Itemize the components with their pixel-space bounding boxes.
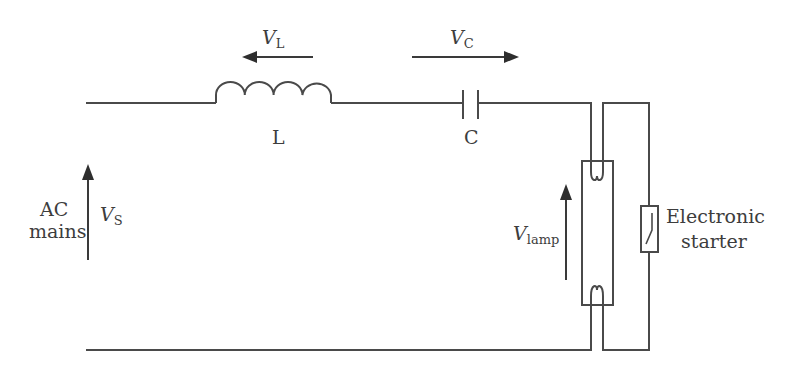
- wire-lamp-bottom-to-starter: [603, 252, 649, 350]
- starter-label-line2: starter: [681, 230, 748, 252]
- bottom-wire: [86, 296, 591, 350]
- lamp-top-filament: [591, 172, 603, 180]
- vs-label: VS: [100, 203, 123, 228]
- vc-arrowhead-icon: [504, 51, 519, 63]
- vlamp-label: Vlamp: [513, 222, 559, 247]
- capacitor-label: C: [464, 126, 479, 148]
- starter-box: [641, 206, 658, 252]
- inductor-coil: [216, 82, 331, 103]
- starter-switch-icon: [646, 213, 652, 244]
- lamp-bottom-filament: [591, 286, 603, 296]
- vl-arrowhead-icon: [242, 51, 257, 63]
- vl-label: VL: [262, 26, 285, 51]
- inductor-label: L: [272, 126, 285, 148]
- circuit-diagram: VL VC L C AC mains VS Vlamp Electronic s…: [0, 0, 786, 371]
- ac-mains-label-line1: AC: [39, 198, 68, 220]
- vc-label: VC: [450, 26, 474, 51]
- ac-mains-label-line2: mains: [29, 220, 86, 242]
- starter-label-line1: Electronic: [666, 205, 765, 227]
- wire-lamp-top-to-starter: [603, 103, 649, 206]
- lamp-tube: [582, 161, 613, 305]
- wire-capacitor-lamp: [478, 103, 591, 172]
- vs-arrowhead-icon: [82, 164, 94, 180]
- vlamp-arrowhead-icon: [560, 184, 572, 200]
